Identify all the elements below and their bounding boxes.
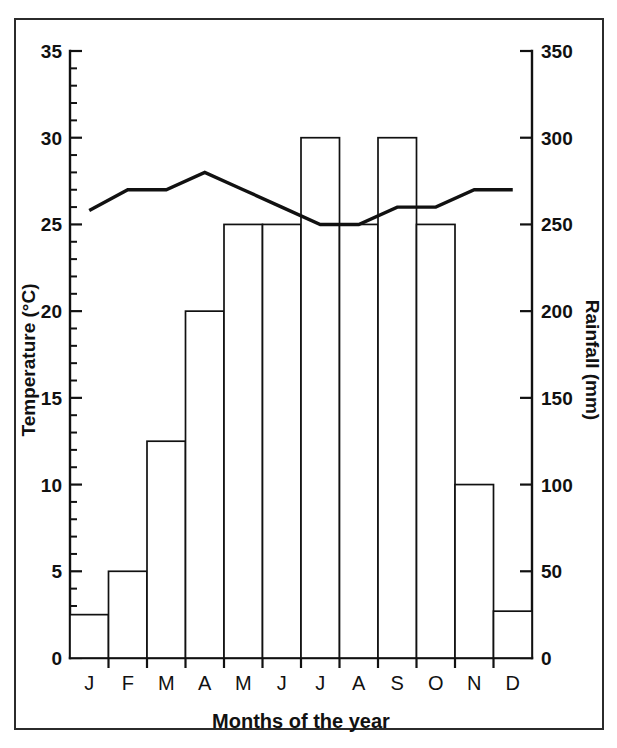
left-tick-label-15: 15 bbox=[41, 388, 63, 409]
right-axis-title: Rainfall (mm) bbox=[582, 300, 603, 420]
month-label-december: D bbox=[506, 672, 520, 694]
month-label-may: M bbox=[235, 672, 252, 694]
climograph-plot: 05101520253035 050100150200250300350 JFM… bbox=[0, 0, 617, 748]
climograph-figure: 05101520253035 050100150200250300350 JFM… bbox=[0, 0, 617, 748]
left-tick-label-25: 25 bbox=[41, 214, 63, 235]
rainfall-bar bbox=[494, 611, 533, 658]
rainfall-bar bbox=[340, 224, 379, 658]
rainfall-bar bbox=[70, 615, 109, 658]
rainfall-bar bbox=[417, 224, 456, 658]
right-axis-ticks bbox=[520, 51, 532, 658]
month-label-march: M bbox=[158, 672, 175, 694]
rainfall-bar bbox=[109, 571, 148, 658]
left-axis-title: Temperature (°C) bbox=[18, 284, 39, 437]
rainfall-bar bbox=[147, 441, 186, 658]
left-tick-label-30: 30 bbox=[41, 128, 62, 149]
month-label-july: J bbox=[315, 672, 325, 694]
right-tick-label-150: 150 bbox=[541, 388, 573, 409]
right-tick-label-0: 0 bbox=[541, 648, 552, 669]
left-tick-label-35: 35 bbox=[41, 41, 63, 62]
left-tick-label-10: 10 bbox=[41, 475, 62, 496]
left-tick-labels: 05101520253035 bbox=[41, 41, 63, 669]
rainfall-bar bbox=[224, 224, 263, 658]
right-tick-label-200: 200 bbox=[541, 301, 573, 322]
month-label-august: A bbox=[352, 672, 366, 694]
month-label-january: J bbox=[84, 672, 94, 694]
month-label-september: S bbox=[391, 672, 404, 694]
left-axis-ticks bbox=[70, 51, 82, 658]
month-label-june: J bbox=[277, 672, 287, 694]
right-tick-label-350: 350 bbox=[541, 41, 573, 62]
right-tick-label-250: 250 bbox=[541, 214, 573, 235]
right-tick-label-50: 50 bbox=[541, 561, 562, 582]
left-tick-label-0: 0 bbox=[51, 648, 62, 669]
month-label-november: N bbox=[467, 672, 481, 694]
rainfall-bar bbox=[263, 224, 302, 658]
rainfall-bar bbox=[301, 138, 340, 658]
rainfall-bar bbox=[186, 311, 225, 658]
right-tick-label-100: 100 bbox=[541, 475, 573, 496]
month-label-october: O bbox=[428, 672, 444, 694]
rainfall-bar bbox=[455, 485, 494, 658]
month-label-april: A bbox=[198, 672, 212, 694]
right-tick-labels: 050100150200250300350 bbox=[541, 41, 573, 669]
month-ticks bbox=[109, 658, 494, 668]
x-axis-title: Months of the year bbox=[212, 710, 390, 732]
left-tick-label-5: 5 bbox=[51, 561, 62, 582]
left-tick-label-20: 20 bbox=[41, 301, 62, 322]
month-tick-labels: JFMAMJJASOND bbox=[84, 672, 520, 694]
right-tick-label-300: 300 bbox=[541, 128, 573, 149]
rainfall-bar bbox=[378, 138, 417, 658]
month-label-february: F bbox=[122, 672, 134, 694]
